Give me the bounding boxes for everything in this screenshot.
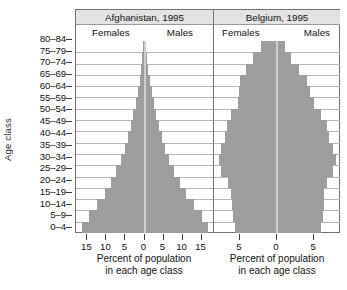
y-tick-mark xyxy=(66,121,72,122)
bar-male xyxy=(145,75,150,86)
sex-label-row-belgium: Females Males xyxy=(214,26,340,40)
bar-female xyxy=(228,177,277,188)
bar-female xyxy=(225,131,277,142)
bar-male xyxy=(145,109,156,120)
x-tick-label: 5 xyxy=(310,241,315,252)
panel-belgium: Belgium, 1995 Females Males xyxy=(214,10,340,232)
bar-male xyxy=(277,120,327,131)
bar-male xyxy=(277,188,324,199)
y-tick-label: 50–54 xyxy=(40,104,66,114)
plot-body-afghanistan xyxy=(76,41,213,233)
bar-male xyxy=(277,143,333,154)
bar-female xyxy=(125,143,145,154)
x-tick-mark xyxy=(86,234,87,240)
x-tick-mark xyxy=(201,234,202,240)
y-tick-label: 35–39 xyxy=(40,140,66,150)
y-tick-label: 45–49 xyxy=(40,116,66,126)
y-tick-mark xyxy=(66,98,72,99)
bar-male xyxy=(145,86,152,97)
female-label-belgium: Females xyxy=(222,26,260,40)
center-axis-line xyxy=(277,41,278,233)
x-caption-line1-afghanistan: Percent of population xyxy=(70,253,218,265)
bar-female xyxy=(231,109,277,120)
y-tick-label: 0–4 xyxy=(50,222,66,232)
x-tick-label: 0 xyxy=(141,241,146,252)
bar-male xyxy=(277,177,327,188)
plot-body-belgium xyxy=(214,41,340,233)
bar-male xyxy=(277,109,321,120)
x-tick-label: 5 xyxy=(160,241,165,252)
bar-female xyxy=(246,64,277,75)
x-axis-belgium: 505 xyxy=(213,234,339,241)
bar-male xyxy=(277,154,336,165)
bar-female xyxy=(221,165,277,176)
bar-male xyxy=(277,52,291,63)
y-tick-label: 70–74 xyxy=(40,57,66,67)
bar-female xyxy=(239,86,277,97)
x-tick-mark xyxy=(239,234,240,240)
bar-female xyxy=(235,222,277,233)
y-tick-label: 80–84 xyxy=(40,34,66,44)
y-tick-mark xyxy=(66,86,72,87)
bar-female xyxy=(82,222,144,233)
y-tick-label: 75–79 xyxy=(40,46,66,56)
bar-male xyxy=(277,97,314,108)
bar-male xyxy=(145,199,194,210)
x-tick-mark xyxy=(182,234,183,240)
y-tick-mark xyxy=(66,74,72,75)
y-tick-mark xyxy=(66,145,72,146)
bar-female xyxy=(133,109,144,120)
y-axis-tick-labels: 80–8475–7970–7465–6960–6455–5950–5445–49… xyxy=(16,33,72,233)
y-tick-label: 65–69 xyxy=(40,69,66,79)
y-tick-label: 40–44 xyxy=(40,128,66,138)
bar-male xyxy=(277,64,299,75)
y-tick-mark xyxy=(66,192,72,193)
y-tick-mark xyxy=(66,109,72,110)
male-label-belgium: Males xyxy=(304,26,330,40)
y-tick-mark xyxy=(66,51,72,52)
bar-female xyxy=(97,199,145,210)
y-tick-label: 15–19 xyxy=(40,187,66,197)
bar-female xyxy=(116,165,144,176)
bar-male xyxy=(145,64,148,75)
y-tick-label: 55–59 xyxy=(40,93,66,103)
x-tick-label: 10 xyxy=(176,241,187,252)
x-axis-afghanistan: 15105051015 xyxy=(75,234,212,241)
x-tick-label: 15 xyxy=(81,241,92,252)
y-tick-mark xyxy=(66,204,72,205)
panel-title-belgium: Belgium, 1995 xyxy=(214,10,340,25)
bar-male xyxy=(145,120,159,131)
center-axis-line xyxy=(144,41,145,233)
bar-male xyxy=(277,199,324,210)
y-tick-mark xyxy=(66,168,72,169)
x-axis-caption-belgium: Percent of population in each age class xyxy=(210,253,344,277)
bar-male xyxy=(145,97,154,108)
y-tick-label: 25–29 xyxy=(40,163,66,173)
y-tick-mark xyxy=(66,157,72,158)
male-label-afghanistan: Males xyxy=(167,26,193,40)
x-caption-line2-belgium: in each age class xyxy=(210,265,344,277)
y-tick-label: 60–64 xyxy=(40,81,66,91)
x-caption-line2-afghanistan: in each age class xyxy=(70,265,218,277)
bar-male xyxy=(277,210,323,221)
y-tick-label: 30–34 xyxy=(40,152,66,162)
bar-female xyxy=(221,143,277,154)
x-tick-mark xyxy=(124,234,125,240)
bar-female xyxy=(111,177,144,188)
y-tick-mark xyxy=(66,227,72,228)
bar-male xyxy=(277,41,285,52)
y-tick-mark xyxy=(66,180,72,181)
y-axis-title: Age class xyxy=(2,92,16,188)
bar-male xyxy=(277,131,329,142)
bar-male xyxy=(145,131,162,142)
bar-female xyxy=(232,199,277,210)
x-tick-mark xyxy=(163,234,164,240)
panel-title-afghanistan: Afghanistan, 1995 xyxy=(76,10,213,25)
x-tick-label: 15 xyxy=(195,241,206,252)
bar-female xyxy=(240,75,277,86)
sex-label-row-afghanistan: Females Males xyxy=(76,26,213,40)
bar-female xyxy=(238,97,277,108)
plot-frame: Afghanistan, 1995 Females Males Belgium,… xyxy=(75,9,340,233)
bar-male xyxy=(145,210,202,221)
bar-male xyxy=(145,188,187,199)
